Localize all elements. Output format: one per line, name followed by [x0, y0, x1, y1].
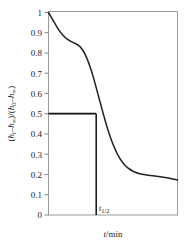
y-axis-title-text: (ht–h∞)/(h0–h∞): [6, 86, 17, 142]
x-axis-title: t/min: [103, 229, 123, 239]
y-tick-label-0.7: 0.7: [31, 69, 43, 79]
y-tick-label-0.3: 0.3: [31, 150, 43, 160]
y-tick-label-1: 1: [38, 8, 43, 18]
y-axis-title: (ht–h∞)/(h0–h∞): [6, 86, 17, 142]
y-tick-label-0.8: 0.8: [31, 48, 43, 58]
y-axis-ticks: [45, 13, 49, 216]
y-tick-label-0: 0: [38, 210, 43, 220]
y-axis-tick-labels: 1 0.9 0.8 0.7 0.6 0.5 0.4 0.3 0.2 0.1 0: [31, 8, 43, 221]
y-tick-label-0.6: 0.6: [31, 89, 43, 99]
y-tick-label-0.2: 0.2: [31, 170, 42, 180]
chart-svg: 1 0.9 0.8 0.7 0.6 0.5 0.4 0.3 0.2 0.1 0 …: [0, 0, 189, 245]
y-tick-label-0.9: 0.9: [31, 28, 43, 38]
y-tick-label-0.5: 0.5: [31, 109, 43, 119]
y-tick-label-0.4: 0.4: [31, 129, 43, 139]
y-tick-label-0.1: 0.1: [31, 190, 42, 200]
chart-figure: 1 0.9 0.8 0.7 0.6 0.5 0.4 0.3 0.2 0.1 0 …: [0, 0, 189, 245]
